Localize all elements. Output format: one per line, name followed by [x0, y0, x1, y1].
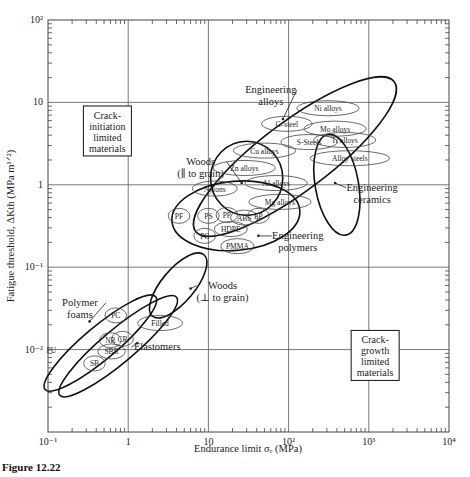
- pointer-dot: [257, 235, 260, 238]
- family-label-line: (∥ to grain): [177, 168, 224, 180]
- material-label: Ni alloys: [314, 104, 341, 113]
- family-label-line: Polymer: [62, 297, 98, 308]
- family-label-line: Engineering: [245, 84, 297, 95]
- family-pointer: [335, 183, 346, 188]
- material-label: SBR: [104, 347, 118, 356]
- pointer-dot: [189, 287, 192, 290]
- family-label-line: foams: [67, 309, 93, 320]
- x-tick-label: 10⁻¹: [39, 436, 57, 447]
- region-label-line: materials: [357, 367, 394, 378]
- material-label: ABS: [237, 214, 252, 223]
- material-label: PMMA: [226, 242, 250, 251]
- material-label: PF: [175, 212, 183, 221]
- family-label-line: (⊥ to grain): [197, 292, 249, 304]
- family-label-line: ceramics: [353, 194, 390, 205]
- material-label: PC: [200, 232, 209, 241]
- material-label: SB: [90, 359, 99, 368]
- family-label: Polymerfoams: [62, 297, 98, 320]
- material-label: HDPE: [221, 225, 241, 234]
- family-label: Elastomers: [134, 341, 181, 352]
- material-label: S-Steels: [297, 138, 322, 147]
- material-label: CR: [118, 335, 128, 344]
- figure-caption: Figure 12.22: [2, 461, 60, 473]
- material-label: Ti alloys: [332, 136, 358, 145]
- y-tick-label: 10⁻²: [25, 344, 43, 355]
- region-label-line: materials: [89, 143, 126, 154]
- material-label: Mg alloys: [265, 198, 295, 207]
- x-tick-label: 10⁴: [442, 436, 456, 447]
- x-tick-label: 10³: [362, 436, 375, 447]
- material-label: PC: [111, 311, 120, 320]
- family-label-line: Engineering: [346, 182, 398, 193]
- family-label: Woods(∥ to grain): [177, 156, 224, 180]
- family-label-line: Woods: [186, 156, 215, 167]
- family-label-line: alloys: [258, 96, 283, 107]
- x-tick-label: 1: [126, 436, 131, 447]
- region-label-line: growth: [361, 345, 389, 356]
- pointer-dot: [334, 182, 337, 185]
- material-label: PP: [223, 211, 231, 220]
- family-label: Woods(⊥ to grain): [197, 280, 249, 304]
- material-label: PU: [47, 346, 57, 355]
- family-label-line: Elastomers: [134, 341, 181, 352]
- family-label-line: Woods: [208, 280, 237, 291]
- family-label-line: polymers: [278, 242, 317, 253]
- material-label: EP: [254, 212, 263, 221]
- region-label-line: limited: [361, 356, 389, 367]
- material-label: Zn alloys: [230, 164, 258, 173]
- family-label-line: Engineering: [272, 230, 324, 241]
- family-label: Engineeringalloys: [245, 84, 297, 107]
- y-tick-label: 10: [33, 96, 43, 107]
- pointer-dot: [136, 342, 139, 345]
- material-label: PS: [204, 212, 212, 221]
- pointer-dot: [88, 320, 91, 323]
- chart: 10⁻¹11010²10³10⁴10²10110⁻¹10⁻² Engineeri…: [0, 0, 470, 477]
- material-label: C–steel: [276, 120, 299, 129]
- y-tick-label: 1: [38, 179, 43, 190]
- family-label: Engineeringceramics: [346, 182, 398, 205]
- x-axis-label: Endurance limit σₑ (MPa): [194, 443, 302, 455]
- material-label: Filled: [151, 319, 169, 328]
- y-tick-label: 10²: [30, 14, 43, 25]
- y-tick-label: 10⁻¹: [25, 261, 43, 272]
- material-label: Cu alloys: [250, 147, 279, 156]
- region-label-line: Crack-: [362, 334, 389, 345]
- pointer-dot: [240, 182, 243, 185]
- y-axis-label: Fatigue threshold, ΔKth (MPa m¹ᐟ²): [5, 149, 17, 302]
- material-label: Al alloys: [263, 179, 290, 188]
- region-label-line: initiation: [89, 121, 125, 132]
- region-label-line: limited: [93, 132, 121, 143]
- material-label: Alloy steels: [332, 154, 368, 163]
- region-label-line: Crack-: [94, 110, 121, 121]
- family-label: Engineeringpolymers: [272, 230, 324, 253]
- material-label: Nylons: [204, 185, 226, 194]
